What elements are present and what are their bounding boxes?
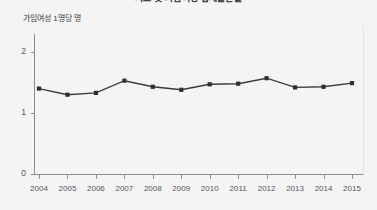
data-point-marker (208, 82, 212, 86)
data-point-marker (122, 79, 126, 83)
y-tick-label: 2 (10, 47, 26, 56)
line-chart-plot (0, 0, 377, 210)
data-point-marker (37, 87, 41, 91)
data-point-marker (321, 85, 325, 89)
data-point-marker (94, 91, 98, 95)
y-tick-marks (31, 53, 35, 175)
series-line-fertility-rate (39, 78, 352, 95)
data-point-marker (65, 93, 69, 97)
data-point-marker (293, 85, 297, 89)
y-tick-label: 0 (10, 169, 26, 178)
chart-container: 시도 및 가임여성 합계출산율 가임여성 1명당 명 120 200420052… (0, 0, 377, 210)
data-point-marker (179, 88, 183, 92)
data-point-marker (151, 85, 155, 89)
x-tick-label: 2015 (335, 184, 369, 194)
data-point-marker (265, 76, 269, 80)
y-tick-label: 1 (10, 108, 26, 117)
data-point-marker (236, 82, 240, 86)
data-point-marker (350, 81, 354, 85)
x-tick-marks (40, 175, 353, 179)
